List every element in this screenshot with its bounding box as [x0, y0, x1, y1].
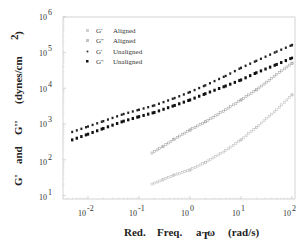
rheology-loglog-chart: 106 105 104 103 102 101 10-2 10-1 100 10…: [0, 0, 308, 246]
x-tick-exp: -2: [87, 204, 94, 213]
legend-marker-g-double-prime-aligned: [86, 39, 89, 42]
svg-text:Aligned: Aligned: [113, 27, 136, 35]
svg-text:Red.: Red.: [124, 226, 146, 238]
svg-text:Unaligned: Unaligned: [113, 58, 143, 66]
legend: G' Aligned G'' Aligned G' Unaligned G'' …: [86, 27, 143, 66]
svg-text:Unaligned: Unaligned: [113, 48, 143, 56]
svg-text:(dynes/cm: (dynes/cm: [12, 56, 25, 104]
y-tick-label: 10: [39, 85, 47, 94]
y-tick-exp: 4: [48, 80, 52, 89]
y-tick-exp: 2: [48, 153, 52, 162]
x-tick-label: 10: [78, 209, 86, 218]
y-tick-exp: 3: [48, 115, 52, 124]
y-tick-exp: 1: [48, 188, 52, 197]
svg-text:Freq.: Freq.: [157, 226, 182, 238]
svg-text:): ): [12, 31, 25, 35]
y-tick-label: 10: [39, 13, 47, 22]
svg-text:Aligned: Aligned: [113, 37, 136, 45]
x-tick-exp: 0: [190, 204, 194, 213]
legend-marker-g-prime-aligned: [86, 29, 89, 32]
x-tick-exp: 1: [241, 204, 245, 213]
svg-text:G'': G'': [96, 37, 104, 45]
y-tick-exp: 6: [48, 8, 52, 17]
x-tick-labels: 10-2 10-1 100 101 102: [78, 204, 296, 218]
y-tick-label: 10: [39, 49, 47, 58]
x-axis-title: Red. Freq. a T ω (rad/s): [124, 226, 260, 241]
svg-text:ω: ω: [207, 226, 215, 238]
y-tick-label: 10: [39, 193, 47, 202]
y-axis-title: G' and G'' (dynes/cm 2 ): [8, 31, 25, 186]
x-tick-exp: 2: [292, 204, 296, 213]
x-tick-exp: -1: [138, 204, 145, 213]
y-tick-label: 10: [39, 158, 47, 167]
minor-ticks: [63, 18, 290, 199]
y-tick-exp: 5: [48, 44, 52, 53]
x-tick-label: 10: [283, 209, 291, 218]
y-axis-ticks: [63, 17, 66, 196]
y-tick-labels: 106 105 104 103 102 101: [39, 8, 52, 202]
series-g-aligned: [151, 62, 293, 154]
y-tick-label: 10: [39, 120, 47, 129]
svg-text:and: and: [12, 146, 24, 164]
svg-text:G': G': [96, 48, 102, 56]
svg-text:G'': G'': [96, 58, 104, 66]
data-series: [71, 44, 293, 185]
svg-text:G': G': [12, 174, 24, 186]
svg-text:G': G': [96, 27, 102, 35]
legend-marker-g-prime-unaligned: [87, 51, 89, 53]
x-tick-label: 10: [232, 209, 240, 218]
x-tick-label: 10: [129, 209, 137, 218]
svg-text:G'': G'': [12, 120, 24, 135]
x-tick-label: 10: [181, 209, 189, 218]
svg-text:(rad/s): (rad/s): [228, 226, 260, 239]
legend-marker-g-double-prime-unaligned: [86, 60, 89, 63]
series-g-unaligned: [71, 57, 293, 142]
